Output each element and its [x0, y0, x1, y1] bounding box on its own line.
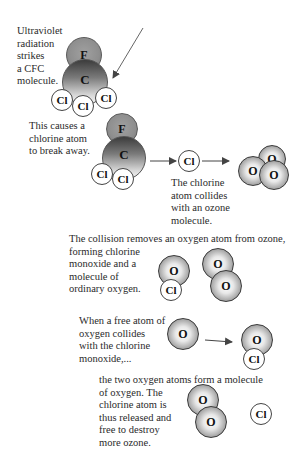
ozone-oxygen-atom: O: [259, 160, 289, 190]
chlorine-atom: Cl: [51, 89, 73, 111]
step1-caption: Ultraviolet radiation strikes a CFC mole…: [17, 25, 63, 88]
o2-oxygen-atom: O: [210, 270, 242, 302]
chlorine-atom: Cl: [91, 163, 113, 185]
free-chlorine-atom: Cl: [178, 150, 200, 172]
released-chlorine-atom: Cl: [250, 403, 272, 425]
chlorine-atom: Cl: [95, 87, 117, 109]
chlorine-atom: Cl: [112, 168, 134, 190]
step6-caption: the two oxygen atoms form a molecule of …: [99, 374, 263, 449]
uv-ray-arrow: [113, 28, 143, 78]
step5-caption: When a free atom of oxygen collides with…: [79, 315, 165, 365]
oxygen-to-clo-arrow: [205, 340, 232, 342]
clo-chlorine-atom: Cl: [160, 279, 182, 301]
clo-chlorine-atom: Cl: [243, 348, 265, 370]
step2-caption: This causes a chlorine atom to break awa…: [29, 120, 90, 158]
free-oxygen-atom: O: [167, 318, 199, 350]
final-o2-oxygen-atom: O: [195, 406, 227, 438]
step3-caption: The chlorine atom collides with an ozone…: [171, 177, 230, 227]
chlorine-atom: Cl: [72, 95, 94, 117]
